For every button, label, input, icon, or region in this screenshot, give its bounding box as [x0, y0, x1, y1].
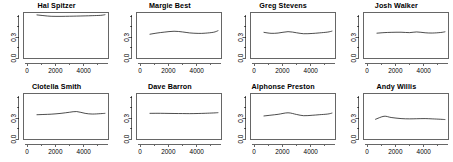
y-tick-label: 0.3 — [350, 113, 357, 122]
x-tick-label: 0 — [139, 147, 143, 154]
plot-7: 0200040000.00.3 — [340, 81, 453, 162]
y-tick-label: 0.0 — [236, 53, 243, 62]
panel-grid: Hal Spitzer 0200040000.00.3 Margie Best … — [0, 0, 453, 161]
y-tick-label: 0.3 — [123, 113, 130, 122]
x-tick-label: 4000 — [190, 147, 205, 154]
plot-0: 0200040000.00.3 — [0, 0, 113, 81]
y-tick-label: 0.3 — [236, 32, 243, 41]
x-tick-label: 0 — [365, 67, 369, 74]
y-tick-label: 0.0 — [10, 53, 17, 62]
y-tick-label: 0.0 — [236, 134, 243, 143]
plot-box — [137, 93, 222, 139]
panel-5: Dave Barron 0200040000.00.3 — [113, 81, 226, 162]
plot-box — [363, 93, 448, 139]
panel-7: Andy Willis 0200040000.00.3 — [340, 81, 453, 162]
y-tick-label: 0.3 — [350, 32, 357, 41]
x-tick-label: 4000 — [77, 67, 92, 74]
series-line — [37, 111, 105, 114]
y-tick-label: 0.3 — [10, 32, 17, 41]
series-line — [263, 112, 331, 115]
y-tick-label: 0.0 — [350, 134, 357, 143]
panel-0: Hal Spitzer 0200040000.00.3 — [0, 0, 113, 81]
y-tick-label: 0.0 — [10, 134, 17, 143]
y-tick-label: 0.3 — [123, 32, 130, 41]
x-tick-label: 4000 — [303, 147, 318, 154]
plot-1: 0200040000.00.3 — [113, 0, 226, 81]
x-tick-label: 4000 — [77, 147, 92, 154]
panel-4: Clotella Smith 0200040000.00.3 — [0, 81, 113, 162]
series-line — [377, 32, 445, 33]
y-tick-label: 0.0 — [123, 53, 130, 62]
y-tick-label: 0.0 — [123, 134, 130, 143]
x-tick-label: 2000 — [388, 67, 403, 74]
x-tick-label: 0 — [139, 67, 143, 74]
x-tick-label: 2000 — [275, 147, 290, 154]
plot-box — [250, 93, 335, 139]
plot-box — [250, 13, 335, 59]
plot-5: 0200040000.00.3 — [113, 81, 226, 162]
x-tick-label: 0 — [25, 147, 29, 154]
panel-3: Josh Walker 0200040000.00.3 — [340, 0, 453, 81]
y-tick-label: 0.0 — [350, 53, 357, 62]
series-line — [375, 116, 444, 119]
plot-3: 0200040000.00.3 — [340, 0, 453, 81]
x-tick-label: 0 — [252, 147, 256, 154]
x-tick-label: 2000 — [275, 67, 290, 74]
panel-6: Alphonse Preston 0200040000.00.3 — [227, 81, 340, 162]
series-line — [263, 31, 331, 34]
x-tick-label: 0 — [25, 67, 29, 74]
plot-2: 0200040000.00.3 — [227, 0, 340, 81]
plot-6: 0200040000.00.3 — [227, 81, 340, 162]
plot-box — [24, 13, 109, 59]
x-tick-label: 2000 — [162, 147, 177, 154]
x-tick-label: 2000 — [48, 147, 63, 154]
x-tick-label: 2000 — [162, 67, 177, 74]
x-tick-label: 4000 — [416, 67, 431, 74]
x-tick-label: 4000 — [416, 147, 431, 154]
y-tick-label: 0.3 — [236, 113, 243, 122]
x-tick-label: 2000 — [48, 67, 63, 74]
x-tick-label: 2000 — [388, 147, 403, 154]
x-tick-label: 0 — [365, 147, 369, 154]
x-tick-label: 4000 — [190, 67, 205, 74]
x-tick-label: 0 — [252, 67, 256, 74]
small-multiples-figure: Hal Spitzer 0200040000.00.3 Margie Best … — [0, 0, 453, 161]
plot-box — [137, 13, 222, 59]
y-tick-label: 0.3 — [10, 113, 17, 122]
series-line — [150, 112, 218, 113]
x-tick-label: 4000 — [303, 67, 318, 74]
panel-2: Greg Stevens 0200040000.00.3 — [227, 0, 340, 81]
series-line — [37, 15, 105, 17]
plot-box — [363, 13, 448, 59]
plot-4: 0200040000.00.3 — [0, 81, 113, 162]
plot-box — [24, 93, 109, 139]
series-line — [150, 31, 218, 35]
panel-1: Margie Best 0200040000.00.3 — [113, 0, 226, 81]
